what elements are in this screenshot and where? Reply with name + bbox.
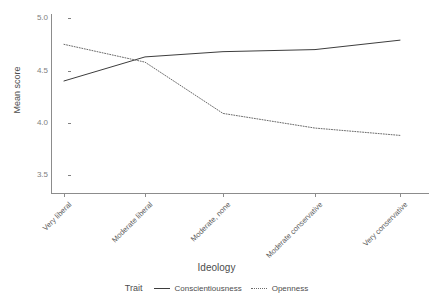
plot-panel xyxy=(51,14,429,194)
series-line-conscientiousness xyxy=(64,40,400,81)
legend-title: Trait xyxy=(125,283,143,293)
x-tick-label: Moderate, none xyxy=(189,200,233,244)
y-tick-label: 4.5 xyxy=(22,67,48,75)
x-tick-mark xyxy=(315,194,316,197)
y-tick-label: 3.5 xyxy=(22,171,48,179)
y-tick-label: 5.0 xyxy=(22,14,48,22)
x-tick-mark xyxy=(400,194,401,197)
plot-series-svg xyxy=(51,14,429,194)
x-tick-label: Very conservative xyxy=(361,200,409,248)
legend-entry-conscientiousness[interactable]: Conscientiousness xyxy=(154,284,242,293)
line-chart-figure: Mean score 3.54.04.55.0 Very liberalMode… xyxy=(0,0,433,304)
series-line-openness xyxy=(64,44,400,135)
x-tick-mark xyxy=(145,194,146,197)
y-axis-tick-labels: 3.54.04.55.0 xyxy=(20,0,48,304)
legend-label: Openness xyxy=(272,284,308,293)
legend-entry-openness[interactable]: Openness xyxy=(251,284,308,293)
x-tick-mark xyxy=(223,194,224,197)
chart-legend: Trait ConscientiousnessOpenness xyxy=(0,283,433,293)
x-tick-label: Moderate conservative xyxy=(264,200,324,260)
legend-line-solid-icon xyxy=(154,284,170,292)
x-tick-label: Moderate liberal xyxy=(110,200,154,244)
legend-label: Conscientiousness xyxy=(175,284,242,293)
x-tick-mark xyxy=(64,194,65,197)
y-tick-label: 4.0 xyxy=(22,119,48,127)
x-axis-title: Ideology xyxy=(0,262,433,273)
legend-line-dotted-icon xyxy=(251,284,267,292)
